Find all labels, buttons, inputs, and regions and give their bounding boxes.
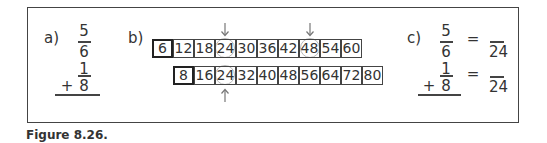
part-c-equals-1: = [466, 32, 480, 47]
part-c-equals-2: = [466, 67, 480, 82]
part-b-label: b) [128, 31, 143, 46]
figure-caption: Figure 8.26. [26, 128, 108, 142]
cell: 32 [236, 66, 257, 85]
arrow-down-icon [220, 23, 230, 37]
cell: 36 [257, 39, 278, 58]
cell: 16 [194, 66, 215, 85]
cell: 18 [194, 39, 215, 58]
cell: 56 [299, 66, 320, 85]
cell: 80 [362, 66, 383, 85]
cell: 60 [341, 39, 362, 58]
part-a-denominator-1: 6 [77, 45, 91, 60]
arrow-up-icon [220, 88, 230, 102]
part-a-denominator-2: 8 [77, 79, 91, 94]
cell-circled: 24 [215, 39, 236, 58]
cell: 64 [320, 66, 341, 85]
cell: 8 [173, 66, 194, 85]
cell-circled: 48 [299, 39, 320, 58]
arrow-down-icon [305, 23, 315, 37]
cell: 40 [257, 66, 278, 85]
part-a-plus: + [60, 79, 74, 94]
cell: 6 [152, 39, 173, 58]
part-a-numerator-1: 5 [77, 24, 91, 39]
part-c-numerator-1: 5 [439, 24, 453, 39]
cell-circled: 24 [215, 66, 236, 85]
part-c-result-denominator-2: 24 [489, 80, 508, 95]
part-c-plus: + [422, 79, 436, 94]
cell: 42 [278, 39, 299, 58]
part-c-denominator-2: 8 [439, 79, 453, 94]
cell: 48 [278, 66, 299, 85]
part-c-denominator-1: 6 [439, 45, 453, 60]
cell: 54 [320, 39, 341, 58]
part-a-label: a) [44, 31, 59, 46]
cell: 12 [173, 39, 194, 58]
cell: 72 [341, 66, 362, 85]
part-c-result-denominator-1: 24 [489, 45, 508, 60]
part-c-sum-line [418, 94, 461, 96]
part-c-label: c) [407, 31, 421, 46]
part-a-sum-line [55, 94, 100, 96]
cell: 30 [236, 39, 257, 58]
